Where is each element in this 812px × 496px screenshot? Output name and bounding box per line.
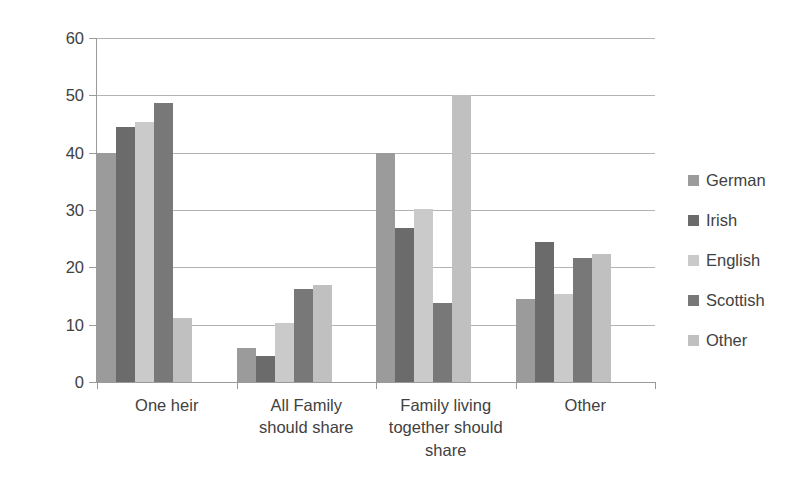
legend-label: Other — [706, 332, 747, 349]
x-axis-label: All Familyshould share — [237, 394, 377, 461]
legend-item[interactable]: Scottish — [688, 280, 808, 320]
x-tick-mark — [376, 382, 377, 389]
y-tick-mark-30 — [89, 210, 97, 211]
bar — [275, 323, 294, 382]
bar-group — [516, 38, 656, 382]
y-tick-label: 50 — [28, 87, 84, 104]
bar — [237, 348, 256, 382]
y-tick-mark-60 — [89, 38, 97, 39]
x-axis-label-line: One heir — [99, 394, 235, 416]
legend-label: Irish — [706, 212, 737, 229]
bar-group — [376, 38, 516, 382]
bar — [313, 285, 332, 382]
bar — [554, 294, 573, 382]
y-tick-mark-10 — [89, 325, 97, 326]
x-axis-label: Other — [516, 394, 656, 461]
x-axis-labels: One heirAll Familyshould shareFamily liv… — [97, 394, 655, 461]
y-axis-labels: 6050403020100 — [20, 0, 84, 496]
legend-item[interactable]: Other — [688, 320, 808, 360]
bar — [376, 153, 395, 382]
legend-label: Scottish — [706, 292, 765, 309]
y-tick-label: 40 — [28, 145, 84, 162]
legend-label: English — [706, 252, 760, 269]
legend-swatch-icon — [688, 215, 699, 226]
bar — [116, 127, 135, 382]
y-tick-label: 0 — [28, 374, 84, 391]
x-tick-mark — [97, 382, 98, 389]
legend-item[interactable]: English — [688, 240, 808, 280]
y-tick-label: 20 — [28, 259, 84, 276]
y-tick-label: 60 — [28, 30, 84, 47]
bar-group — [237, 38, 377, 382]
x-axis-label-line: Family living — [378, 394, 514, 416]
x-axis-label: One heir — [97, 394, 237, 461]
bar — [154, 103, 173, 382]
y-tick-mark-50 — [89, 95, 97, 96]
bar — [516, 299, 535, 382]
bar-groups — [97, 38, 655, 382]
x-axis-label: Family livingtogether shouldshare — [376, 394, 516, 461]
legend-label: German — [706, 172, 766, 189]
bar — [573, 258, 592, 382]
bar — [135, 122, 154, 382]
legend-swatch-icon — [688, 295, 699, 306]
bar — [294, 289, 313, 382]
legend-swatch-icon — [688, 335, 699, 346]
y-tick-label: 10 — [28, 317, 84, 334]
bar — [97, 153, 116, 382]
x-axis-label-line: Other — [518, 394, 654, 416]
bar-chart: 6050403020100 One heirAll Familyshould s… — [0, 0, 812, 496]
bar — [433, 303, 452, 382]
y-tick-mark-20 — [89, 267, 97, 268]
x-axis-label-line: All Family — [239, 394, 375, 416]
y-tick-label: 30 — [28, 202, 84, 219]
bar — [452, 95, 471, 382]
bar — [592, 254, 611, 382]
bar — [173, 318, 192, 382]
bar — [395, 228, 414, 382]
y-tick-mark-0 — [89, 382, 97, 383]
legend-swatch-icon — [688, 255, 699, 266]
bar-group — [97, 38, 237, 382]
x-tick-mark — [516, 382, 517, 389]
x-axis-label-line: together should — [378, 416, 514, 438]
y-tick-mark-40 — [89, 153, 97, 154]
x-tick-mark — [655, 382, 656, 389]
bar — [256, 356, 275, 382]
legend-swatch-icon — [688, 175, 699, 186]
x-tick-mark — [237, 382, 238, 389]
bar — [535, 242, 554, 382]
x-axis-label-line: should share — [239, 416, 375, 438]
legend-item[interactable]: Irish — [688, 200, 808, 240]
x-axis-label-line: share — [378, 439, 514, 461]
bar — [414, 209, 433, 382]
legend-item[interactable]: German — [688, 160, 808, 200]
chart-legend: GermanIrishEnglishScottishOther — [688, 160, 808, 360]
